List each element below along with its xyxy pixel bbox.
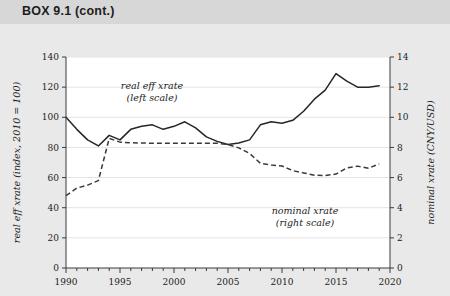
- box-header-band: BOX 9.1 (cont.): [0, 0, 450, 24]
- left-axis-tick-label: 80: [48, 143, 60, 153]
- nominal-xrate-annotation-line1: nominal xrate: [272, 205, 339, 216]
- left-axis-tick-label: 120: [42, 82, 59, 92]
- left-axis-tick-label: 20: [48, 233, 60, 243]
- left-axis-tick-label: 60: [48, 173, 60, 183]
- right-axis-tick-label: 6: [397, 173, 403, 183]
- right-axis-title: nominal xrate (CNY/USD): [425, 100, 436, 225]
- right-axis-tick-label: 2: [397, 233, 403, 243]
- plot-background: [66, 57, 390, 268]
- right-axis-tick-label: 4: [397, 203, 403, 213]
- right-axis-tick-label: 10: [397, 112, 409, 122]
- chart-canvas: 0204060801001201400246810121419901995200…: [0, 24, 450, 296]
- real-eff-xrate-annotation-line2: (left scale): [127, 92, 178, 103]
- real-eff-xrate-annotation: real eff xrate(left scale): [121, 80, 184, 103]
- x-axis-tick-label: 2005: [217, 277, 240, 287]
- right-axis-tick-label: 0: [397, 263, 403, 273]
- x-axis-tick-label: 2015: [325, 277, 348, 287]
- right-axis-tick-label: 8: [397, 143, 403, 153]
- right-axis-tick-label: 14: [397, 52, 409, 62]
- real-eff-xrate-annotation-line1: real eff xrate: [121, 80, 184, 91]
- nominal-xrate-annotation-line2: (right scale): [276, 217, 335, 228]
- x-axis-tick-label: 1995: [109, 277, 132, 287]
- x-axis-tick-label: 2020: [379, 277, 402, 287]
- left-axis-title: real eff xrate (index, 2010 = 100): [11, 82, 22, 244]
- left-axis-tick-label: 0: [53, 263, 59, 273]
- x-axis-tick-label: 2010: [271, 277, 294, 287]
- x-axis-tick-label: 2000: [163, 277, 186, 287]
- left-axis-tick-label: 100: [42, 112, 59, 122]
- left-axis-tick-label: 140: [42, 52, 59, 62]
- nominal-xrate-annotation: nominal xrate(right scale): [272, 205, 339, 228]
- left-axis-tick-label: 40: [48, 203, 60, 213]
- right-axis-tick-label: 12: [397, 82, 408, 92]
- box-header-title: BOX 9.1 (cont.): [22, 4, 115, 18]
- x-axis-tick-label: 1990: [55, 277, 78, 287]
- figure-area: 0204060801001201400246810121419901995200…: [0, 24, 450, 296]
